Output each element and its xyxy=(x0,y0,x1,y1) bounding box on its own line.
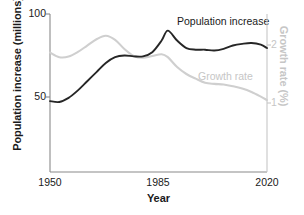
axis-spines xyxy=(50,14,267,172)
series-line-population-increase xyxy=(50,31,267,103)
chart-container: Population increase (millions) Growth ra… xyxy=(0,0,304,215)
plot-area xyxy=(0,0,304,215)
